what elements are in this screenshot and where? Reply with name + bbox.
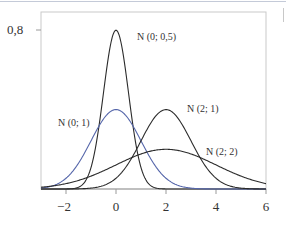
x-tick-label: 0 [113, 200, 120, 213]
x-ticks [66, 189, 266, 194]
x-tick-label: 4 [213, 200, 220, 213]
curve-label-n-2-1: N (2; 1) [187, 104, 219, 114]
y-tick-label: 0,8 [7, 23, 23, 36]
curve-n-0-0-5 [41, 30, 266, 189]
curve-label-n-2-2: N (2; 2) [206, 147, 238, 157]
curve-label-n-0-1: N (0; 1) [58, 118, 90, 128]
x-tick-label: −2 [57, 200, 71, 213]
x-tick-label: 6 [263, 200, 270, 213]
curve-label-n-0-05: N (0; 0,5) [137, 32, 176, 42]
curves [41, 30, 266, 189]
x-tick-label: 2 [163, 200, 170, 213]
